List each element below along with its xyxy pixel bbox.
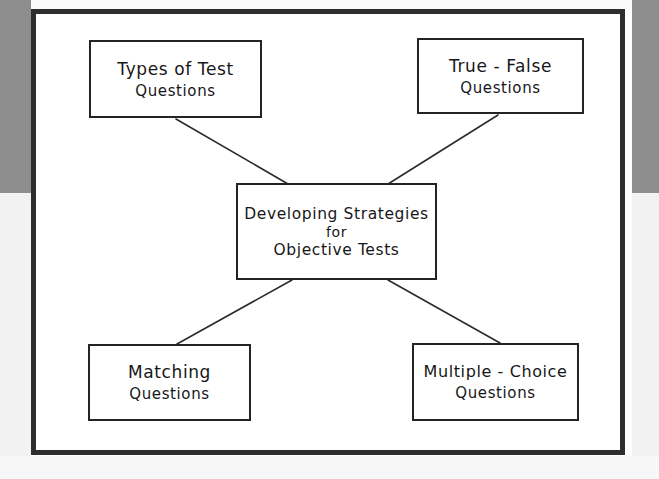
background-gray-left [0,0,31,193]
node-true-false[interactable]: True - False Questions [417,38,584,114]
node-matching-line1: Matching [128,362,211,382]
node-types-of-test[interactable]: Types of Test Questions [89,40,262,118]
background-gray-right [632,0,659,193]
node-multiple-choice-line1: Multiple - Choice [424,362,568,381]
node-center-line3: Objective Tests [273,241,399,259]
background-page-lower-left [0,193,31,479]
node-matching-line2: Questions [129,385,209,403]
node-true-false-line1: True - False [449,56,552,76]
background-page-lower-right [632,193,659,479]
node-developing-strategies[interactable]: Developing Strategies for Objective Test… [236,183,437,280]
node-multiple-choice[interactable]: Multiple - Choice Questions [412,343,579,421]
node-multiple-choice-line2: Questions [455,384,535,402]
node-types-of-test-line2: Questions [135,82,215,100]
diagram-canvas: Types of Test Questions True - False Que… [0,0,659,479]
node-true-false-line2: Questions [460,79,540,97]
node-center-line1: Developing Strategies [244,205,428,223]
node-center-line2: for [326,224,347,240]
background-top-strip [31,0,632,9]
background-bottom-strip [0,456,659,479]
node-types-of-test-line1: Types of Test [117,59,233,79]
node-matching[interactable]: Matching Questions [88,344,251,421]
